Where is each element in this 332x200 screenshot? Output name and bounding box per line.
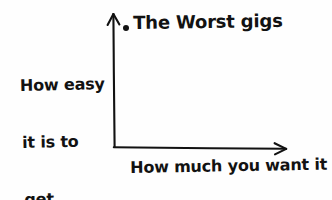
y-axis-label-line-1: How easy [20,74,105,95]
x-axis-label: How much you want it [130,157,327,176]
x-axis-arrow [114,143,286,154]
sketch-chart-figure: The Worst gigs How easy it is to get How… [0,0,332,200]
y-axis-label-line-2: it is to [22,131,106,152]
y-axis-label-line-3: get [24,188,107,200]
y-axis-arrow [108,14,120,147]
y-axis-label: How easy it is to get [19,36,108,200]
data-point-the-worst-gigs [123,25,129,31]
data-point-label-the-worst-gigs: The Worst gigs [133,12,283,32]
